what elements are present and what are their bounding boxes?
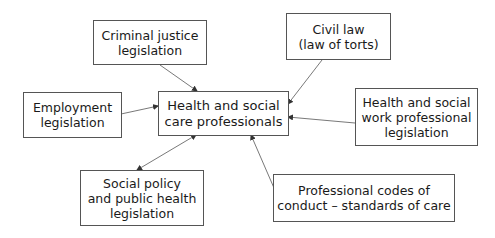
arrow-criminal-justice-to-center	[160, 65, 197, 91]
arrow-employment-to-center	[121, 106, 158, 114]
node-social-policy: Social policy and public health legislat…	[80, 170, 204, 226]
node-label: Health and social work professional legi…	[362, 95, 472, 140]
node-professional-codes: Professional codes of conduct – standard…	[273, 174, 455, 222]
arrow-civil-law-to-center	[288, 60, 322, 104]
node-criminal-justice: Criminal justice legislation	[93, 20, 207, 65]
node-hsw-professional: Health and social work professional legi…	[355, 88, 478, 146]
node-center-health-social-care-professionals: Health and social care professionals	[158, 91, 289, 136]
arrow-hsw-professional-to-center	[288, 117, 355, 123]
node-label: Civil law (law of torts)	[298, 22, 378, 52]
node-label: Employment legislation	[33, 100, 112, 130]
center-label: Health and social care professionals	[165, 98, 283, 130]
diagram-canvas: Criminal justice legislation Civil law (…	[0, 0, 495, 238]
node-civil-law: Civil law (law of torts)	[286, 13, 391, 60]
arrow-professional-codes-to-center	[251, 135, 274, 188]
node-label: Criminal justice legislation	[102, 28, 199, 58]
arrow-social-policy-bidirectional	[137, 135, 196, 170]
node-employment: Employment legislation	[23, 92, 122, 138]
node-label: Social policy and public health legislat…	[88, 176, 197, 221]
node-label: Professional codes of conduct – standard…	[277, 183, 450, 213]
